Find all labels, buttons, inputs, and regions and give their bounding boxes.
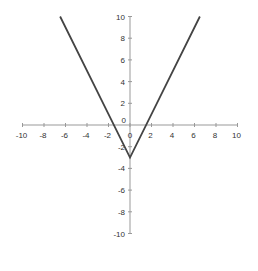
x-tick-label: 4 — [170, 131, 175, 140]
y-tick-label: -8 — [118, 208, 126, 217]
y-tick-label: 8 — [121, 34, 126, 43]
y-tick-label: 2 — [121, 99, 126, 108]
chart-plot: -10-8-6-4-20246810-10-8-6-4-20246810 — [0, 0, 258, 271]
x-tick-label: -8 — [39, 131, 47, 140]
x-tick-label: -6 — [61, 131, 69, 140]
y-tick-label: -4 — [118, 164, 126, 173]
x-tick-label: -2 — [104, 131, 112, 140]
y-tick-label: 6 — [121, 56, 126, 65]
y-tick-label: 10 — [116, 13, 125, 22]
y-tick-label: 0 — [122, 116, 127, 125]
x-tick-label: -10 — [16, 131, 28, 140]
x-tick-label: 2 — [148, 131, 153, 140]
y-tick-label: -10 — [113, 230, 125, 239]
x-tick-label: 10 — [232, 131, 241, 140]
x-tick-label: -4 — [82, 131, 90, 140]
y-tick-label: 4 — [121, 78, 126, 87]
x-tick-label: 0 — [128, 131, 133, 140]
x-tick-label: 6 — [191, 131, 196, 140]
y-tick-label: -6 — [118, 186, 126, 195]
x-tick-label: 8 — [213, 131, 218, 140]
